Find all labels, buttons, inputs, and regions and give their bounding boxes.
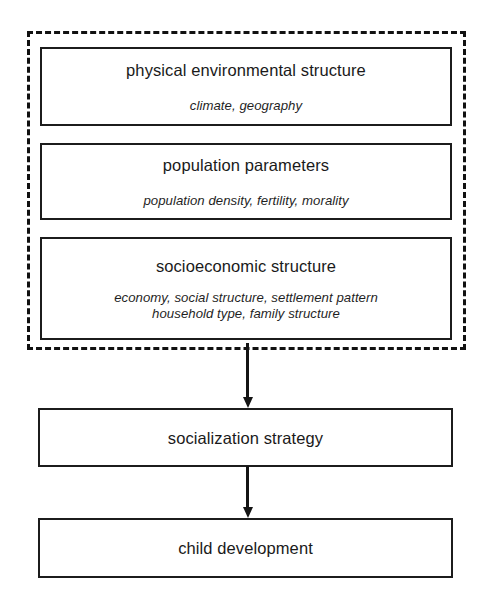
arrow-socialization-strategy-to-child-development (243, 466, 253, 519)
arrow-group-to-socialization-strategy (243, 343, 253, 409)
node-socioeconomic-structure: socioeconomic structure economy, social … (40, 237, 452, 340)
node-title: socialization strategy (168, 428, 323, 448)
node-title: physical environmental structure (126, 60, 366, 80)
node-subtitle-line: climate, geography (190, 98, 302, 114)
node-subtitle-line: household type, family structure (114, 306, 378, 322)
arrow-head-icon (243, 507, 253, 518)
arrow-shaft (246, 466, 249, 509)
node-subtitle-line: economy, social structure, settlement pa… (114, 290, 378, 306)
node-socialization-strategy: socialization strategy (38, 408, 453, 467)
node-population-parameters: population parameters population density… (40, 143, 452, 220)
node-subtitle-line: population density, fertility, morality (143, 193, 348, 209)
arrow-shaft (246, 343, 249, 399)
node-title: socioeconomic structure (156, 256, 336, 276)
node-title: child development (178, 538, 313, 558)
node-subtitle: economy, social structure, settlement pa… (114, 290, 378, 322)
diagram-canvas: physical environmental structure climate… (0, 0, 489, 611)
node-physical-environmental-structure: physical environmental structure climate… (40, 47, 452, 126)
node-subtitle: climate, geography (190, 98, 302, 114)
node-title: population parameters (163, 155, 329, 175)
node-child-development: child development (38, 518, 453, 578)
node-subtitle: population density, fertility, morality (143, 193, 348, 209)
arrow-head-icon (243, 397, 253, 408)
